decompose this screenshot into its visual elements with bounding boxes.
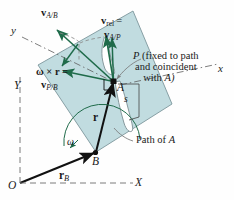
p-note-with: with bbox=[143, 72, 164, 83]
p-note-a: A) bbox=[165, 72, 175, 83]
p-note-line1: P (fixed to path bbox=[133, 50, 199, 61]
label-v-a-over-b: vA/B bbox=[41, 7, 58, 20]
path-of-a-letter: A bbox=[169, 134, 175, 145]
v-p-over-b-subscript: P/B bbox=[46, 83, 57, 92]
vector-rB bbox=[20, 153, 94, 183]
label-path-of-a: Path of A bbox=[136, 134, 175, 145]
v-a-over-b-subscript: A/B bbox=[46, 11, 57, 20]
label-p-note: P (fixed to path and coincident with A) bbox=[133, 50, 199, 83]
label-point-b: B bbox=[92, 155, 99, 167]
label-v-rel: vrel= bbox=[101, 15, 122, 28]
label-s: s bbox=[124, 95, 128, 105]
label-v-a-over-p: vA/P bbox=[104, 29, 121, 42]
rotating-x-axis-label: x bbox=[218, 63, 223, 75]
rb-subscript: B bbox=[64, 174, 69, 183]
rotating-y-axis-label: y bbox=[11, 25, 16, 37]
v-rel-equals: = bbox=[116, 15, 122, 26]
label-vector-r: r bbox=[93, 111, 98, 123]
p-note-line2: and coincident bbox=[133, 61, 199, 72]
path-of-a-text: Path of bbox=[136, 134, 169, 145]
label-omega-cross-r: ω × r = bbox=[36, 66, 68, 77]
p-note-rest1: (fixed to path bbox=[139, 50, 198, 61]
fixed-y-axis-label: Y bbox=[14, 79, 20, 91]
origin-label: O bbox=[8, 179, 16, 191]
v-rel-subscript: rel bbox=[106, 19, 114, 28]
p-note-line3: with A) bbox=[119, 72, 199, 83]
figure-canvas: y x Y X O vA/B vrel= vA/P ω × r = vP/B P… bbox=[0, 0, 234, 200]
label-v-p-over-b: vP/B bbox=[41, 79, 58, 92]
label-omega: ω bbox=[67, 137, 74, 148]
label-vector-rb: rB bbox=[59, 169, 69, 184]
label-point-a: A bbox=[117, 81, 124, 93]
fixed-x-axis-label: X bbox=[135, 176, 142, 188]
v-a-over-p-subscript: A/P bbox=[109, 33, 120, 42]
